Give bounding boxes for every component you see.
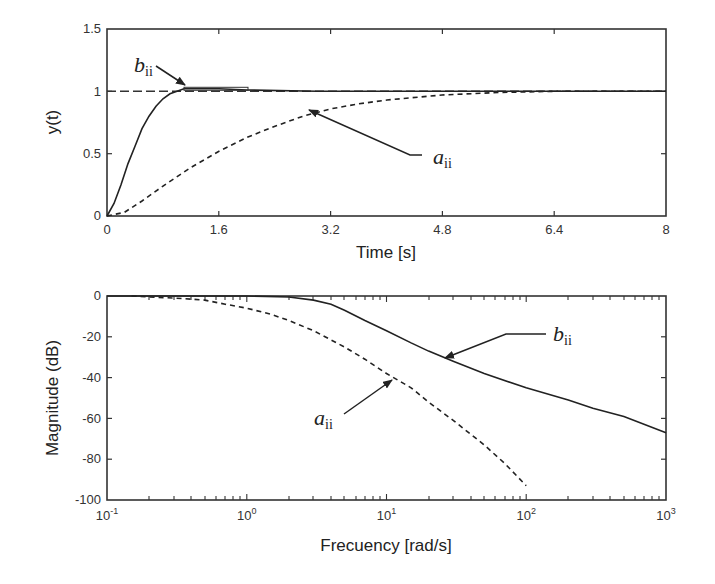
y-axis-label: Magnitude (dB) bbox=[43, 340, 62, 456]
step-response-plot: 0 1.6 3.2 4.8 6.4 8 0 0.5 1 1.5 Time [s]… bbox=[43, 21, 670, 262]
y-tick-label: -20 bbox=[82, 329, 101, 344]
x-tick-label: 10-1 bbox=[96, 506, 118, 523]
x-tick-label: 102 bbox=[516, 506, 535, 523]
x-tick-label: 8 bbox=[662, 222, 669, 237]
annotation-label: aii bbox=[314, 405, 333, 432]
figure: 0 1.6 3.2 4.8 6.4 8 0 0.5 1 1.5 Time [s]… bbox=[0, 0, 715, 584]
y-tick-label: 0.5 bbox=[83, 146, 101, 161]
x-tick-label: 101 bbox=[377, 506, 396, 523]
annotation-label: aii bbox=[433, 144, 452, 171]
x-axis-label: Time [s] bbox=[356, 243, 416, 262]
plot-frame bbox=[107, 296, 666, 500]
x-tick-label: 3.2 bbox=[322, 222, 340, 237]
annotation-label: bii bbox=[134, 52, 153, 79]
x-tick-label: 0 bbox=[103, 222, 110, 237]
x-tick-labels: 10-1 100 101 102 103 bbox=[96, 506, 676, 523]
x-axis-label: Frecuency [rad/s] bbox=[320, 536, 451, 555]
y-tick-label: 0 bbox=[94, 208, 101, 223]
y-tick-labels: 0 0.5 1 1.5 bbox=[83, 21, 101, 223]
series-b-ii bbox=[107, 296, 666, 433]
series-a-ii bbox=[107, 91, 666, 216]
y-tick-label: -100 bbox=[75, 492, 101, 507]
annotation-b-ii: bii bbox=[134, 52, 185, 85]
series-b-ii bbox=[107, 89, 666, 216]
annotation-a-ii: aii bbox=[309, 110, 452, 171]
y-tick-label: 0 bbox=[94, 288, 101, 303]
bode-magnitude-plot: 10-1 100 101 102 103 0 -20 -40 -60 -80 -… bbox=[43, 288, 676, 555]
x-tick-label: 103 bbox=[656, 506, 675, 523]
y-axis-label: y(t) bbox=[43, 110, 62, 135]
x-tick-label: 1.6 bbox=[210, 222, 228, 237]
y-tick-label: 1.5 bbox=[83, 21, 101, 36]
x-ticks bbox=[149, 296, 659, 500]
x-tick-label: 100 bbox=[237, 506, 256, 523]
x-tick-labels: 0 1.6 3.2 4.8 6.4 8 bbox=[103, 222, 669, 237]
y-tick-label: -40 bbox=[82, 370, 101, 385]
y-tick-labels: 0 -20 -40 -60 -80 -100 bbox=[75, 288, 101, 507]
x-ticks bbox=[219, 29, 554, 216]
annotation-b-ii: bii bbox=[445, 321, 572, 358]
plot-frame bbox=[107, 29, 666, 216]
y-tick-label: -60 bbox=[82, 411, 101, 426]
y-ticks bbox=[107, 337, 666, 459]
annotation-a-ii: aii bbox=[314, 380, 392, 432]
y-tick-label: -80 bbox=[82, 451, 101, 466]
annotation-label: bii bbox=[553, 321, 572, 348]
y-tick-label: 1 bbox=[94, 84, 101, 99]
series-a-ii bbox=[132, 296, 527, 486]
x-tick-label: 4.8 bbox=[433, 222, 451, 237]
x-tick-label: 6.4 bbox=[545, 222, 563, 237]
